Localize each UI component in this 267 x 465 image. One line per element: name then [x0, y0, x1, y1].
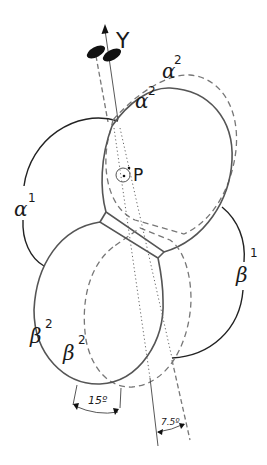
svg-text:1: 1 — [250, 246, 258, 260]
svg-text:β: β — [235, 263, 248, 287]
y-axis — [96, 24, 118, 122]
svg-text:7.5º: 7.5º — [161, 417, 180, 427]
arrow-up-icon — [102, 24, 109, 34]
alpha2-outer-label: α 2 — [162, 53, 182, 83]
pivot-circle — [116, 168, 130, 182]
lower-dashed-shape — [84, 228, 191, 387]
upper-solid-shape — [102, 88, 232, 252]
svg-text:2: 2 — [148, 84, 156, 98]
svg-text:2: 2 — [174, 53, 182, 67]
svg-text:α: α — [135, 89, 149, 113]
angle-15-annotation: 15º — [73, 385, 121, 415]
svg-text:2: 2 — [78, 333, 86, 347]
dotted-axis-2 — [120, 128, 172, 358]
lower-solid-shape — [34, 222, 163, 384]
svg-text:1: 1 — [28, 191, 36, 205]
beta1-label: β 1 — [235, 246, 258, 287]
symmetry-diagram: Y P α 2 α 2 α 1 β 1 β 2 β 2 — [0, 0, 267, 465]
alpha2-inner-label: α 2 — [135, 84, 156, 113]
svg-text:α: α — [14, 197, 28, 221]
svg-text:β: β — [62, 341, 75, 365]
beta2-outer-label: β 2 — [29, 317, 53, 348]
beta1-arc — [222, 207, 244, 262]
dotted-axis-1 — [114, 128, 150, 378]
axis-label: Y — [115, 28, 130, 53]
beta2-inner-label: β 2 — [62, 333, 86, 365]
point-label: P — [133, 165, 143, 185]
alpha1-label: α 1 — [14, 191, 36, 221]
svg-text:15º: 15º — [88, 394, 108, 407]
svg-text:2: 2 — [45, 317, 53, 331]
svg-text:β: β — [29, 324, 42, 348]
angle-7.5-annotation: 7.5º — [150, 360, 190, 446]
